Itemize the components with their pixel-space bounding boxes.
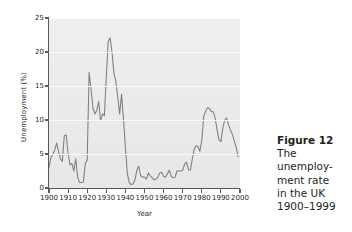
caption-line-4: 1900–1999 xyxy=(277,200,352,213)
gridline-y-20 xyxy=(49,52,240,53)
caption-line-0: The xyxy=(277,147,352,160)
caption-body: Theunemploy-ment ratein the UK1900–1999 xyxy=(277,147,352,213)
x-tick-1930 xyxy=(106,189,107,193)
x-tick-1960 xyxy=(163,189,164,193)
y-tick-25 xyxy=(45,17,49,18)
x-tick-1950 xyxy=(144,189,145,193)
y-axis-line xyxy=(48,17,49,189)
x-tick-1980 xyxy=(201,189,202,193)
unemployment-line-series xyxy=(49,18,240,188)
y-tick-label-10: 10 xyxy=(16,117,44,124)
x-tick-1900 xyxy=(48,189,49,193)
x-tick-2000 xyxy=(239,189,240,193)
y-tick-label-15: 15 xyxy=(16,83,44,90)
plot-area xyxy=(49,18,240,188)
x-axis-title: Year xyxy=(49,210,240,218)
x-tick-1990 xyxy=(220,189,221,193)
gridline-y-15 xyxy=(49,86,240,87)
x-tick-1970 xyxy=(182,189,183,193)
figure-chart: Unemployment (%) 0510152025 190019101920… xyxy=(0,0,270,232)
y-tick-20 xyxy=(45,51,49,52)
figure-caption: Figure 12 Theunemploy-ment ratein the UK… xyxy=(277,134,352,213)
x-tick-label-2000: 2000 xyxy=(220,194,260,202)
gridline-y-25 xyxy=(49,18,240,19)
y-tick-label-20: 20 xyxy=(16,49,44,56)
gridline-y-5 xyxy=(49,154,240,155)
caption-line-3: in the UK xyxy=(277,187,352,200)
y-tick-label-5: 5 xyxy=(16,151,44,158)
x-tick-1910 xyxy=(68,189,69,193)
caption-line-1: unemploy- xyxy=(277,160,352,173)
gridline-y-10 xyxy=(49,120,240,121)
caption-title: Figure 12 xyxy=(277,134,352,147)
x-tick-1940 xyxy=(125,189,126,193)
caption-line-2: ment rate xyxy=(277,174,352,187)
y-tick-15 xyxy=(45,85,49,86)
y-tick-10 xyxy=(45,119,49,120)
y-tick-label-25: 25 xyxy=(16,15,44,22)
y-tick-label-0: 0 xyxy=(16,185,44,192)
y-tick-5 xyxy=(45,153,49,154)
x-tick-1920 xyxy=(87,189,88,193)
